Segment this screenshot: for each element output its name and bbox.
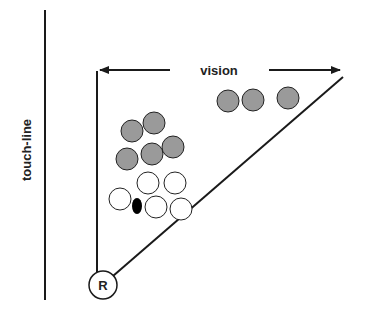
player-white bbox=[109, 188, 131, 210]
player-white bbox=[145, 196, 167, 218]
touch-line-label: touch-line bbox=[19, 119, 34, 181]
player-grey bbox=[162, 136, 184, 158]
vision-label: vision bbox=[200, 63, 238, 78]
player-white bbox=[164, 172, 186, 194]
referee-positioning-diagram: touch-line vision R bbox=[0, 0, 366, 323]
white-team-players bbox=[109, 172, 192, 220]
player-grey bbox=[121, 120, 143, 142]
player-grey bbox=[116, 148, 138, 170]
player-grey bbox=[277, 87, 299, 109]
player-grey bbox=[217, 90, 239, 112]
referee-label: R bbox=[98, 278, 108, 293]
player-white bbox=[137, 172, 159, 194]
player-white bbox=[170, 198, 192, 220]
player-grey bbox=[143, 112, 165, 134]
ball-icon bbox=[132, 198, 142, 214]
player-grey bbox=[242, 89, 264, 111]
player-grey bbox=[141, 143, 163, 165]
grey-team-players bbox=[116, 87, 299, 170]
